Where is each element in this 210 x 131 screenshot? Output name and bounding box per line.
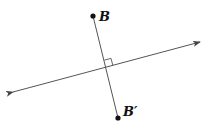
line-of-reflection — [13, 42, 200, 92]
reflection-diagram: B B′ — [0, 0, 210, 131]
segment-b-bprime — [93, 16, 118, 118]
point-b-prime-label: B′ — [122, 104, 138, 119]
point-b-prime — [115, 115, 120, 120]
point-b-label: B — [98, 9, 110, 24]
point-b — [90, 13, 95, 18]
right-angle-marker — [104, 58, 113, 65]
